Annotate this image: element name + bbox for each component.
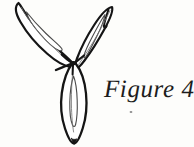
figure-scan: Figure 4: [0, 0, 194, 147]
junction-node: [70, 61, 75, 65]
flower-illustration: [0, 0, 194, 147]
paper-speck: [130, 111, 133, 113]
